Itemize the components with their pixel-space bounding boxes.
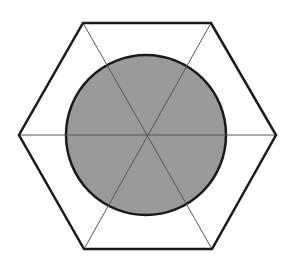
hexagon-circle-diagram [0, 0, 297, 264]
